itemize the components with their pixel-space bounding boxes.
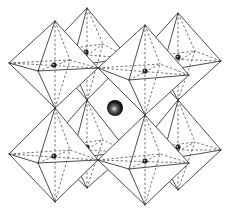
a-site-layer <box>107 100 123 116</box>
crystal-structure-canvas <box>0 0 230 211</box>
a-site-atom <box>107 100 123 116</box>
b-site-atom <box>142 68 147 73</box>
b-site-atom <box>175 54 180 59</box>
perovskite-diagram: Perovskite crystal structure (ABO3) — co… <box>0 0 230 211</box>
b-site-atom <box>142 158 147 163</box>
b-site-atom <box>51 153 56 158</box>
b-site-atom <box>51 62 56 67</box>
